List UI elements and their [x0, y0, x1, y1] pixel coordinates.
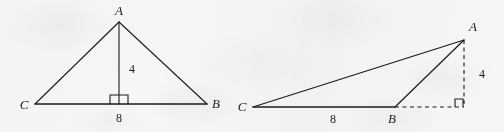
- right-triangle-height-label: 4: [479, 67, 485, 81]
- right-triangle-label-a: A: [468, 19, 477, 34]
- figure-canvas: A C B 4 8 A C B 4 8: [0, 0, 504, 132]
- right-triangle-label-b: B: [388, 111, 396, 126]
- right-triangle-side-ab: [395, 40, 464, 107]
- right-triangle-base-label: 8: [330, 112, 336, 126]
- right-triangle-label-c: C: [238, 99, 247, 114]
- right-triangle-side-ca: [253, 40, 464, 107]
- right-triangle-right-angle-icon: [455, 99, 463, 107]
- right-triangle-figure: A C B 4 8: [0, 0, 504, 132]
